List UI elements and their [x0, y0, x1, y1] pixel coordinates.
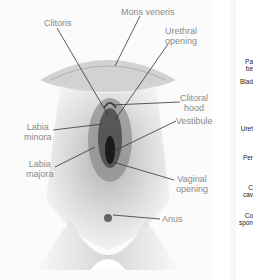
- label-vestibule: Vestibule: [176, 116, 213, 126]
- label-clitoris: Clitoris: [44, 18, 72, 28]
- label-mons-veneris: Mons veneris: [121, 7, 175, 17]
- label-labia-minora: Labia minora: [24, 122, 52, 142]
- side-label-6: Co spon: [239, 212, 253, 226]
- label-vaginal-opening: Vaginal opening: [176, 174, 208, 194]
- label-anus: Anus: [162, 214, 183, 224]
- label-labia-majora: Labia majora: [26, 159, 54, 179]
- side-label-2: Blad: [240, 78, 253, 85]
- side-label-3: Uret: [241, 125, 253, 132]
- label-urethral-opening: Urethral opening: [165, 26, 197, 46]
- label-clitoral-hood: Clitoral hood: [180, 93, 208, 113]
- side-label-4: Per: [243, 154, 253, 161]
- side-label-5: C cav: [243, 184, 253, 198]
- side-label-1: Pa be: [245, 58, 253, 72]
